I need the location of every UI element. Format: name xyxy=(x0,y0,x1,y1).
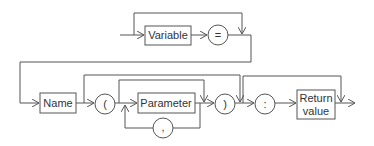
syntax-diagram: Variable = Name ( Parameter , ) : Return… xyxy=(0,0,374,146)
colon-label: : xyxy=(263,98,266,110)
main-rail: Name ( Parameter , ) : Return value xyxy=(40,75,355,138)
open-paren-label: ( xyxy=(103,98,107,110)
close-paren-label: ) xyxy=(223,98,227,110)
equals-label: = xyxy=(215,29,221,41)
return-label-line2: value xyxy=(303,105,329,117)
assignment-prefix: Variable = xyxy=(20,13,251,103)
name-label: Name xyxy=(43,97,72,109)
variable-label: Variable xyxy=(148,29,188,41)
parameter-label: Parameter xyxy=(140,97,192,109)
comma-label: , xyxy=(161,121,164,133)
return-label-line1: Return xyxy=(299,92,332,104)
